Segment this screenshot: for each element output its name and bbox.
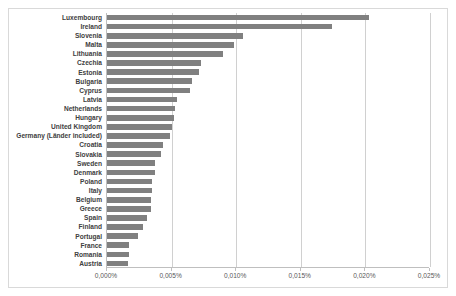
bar — [107, 224, 143, 230]
y-axis-label: Slovakia — [75, 151, 102, 158]
x-axis-tick — [235, 268, 236, 271]
bar — [107, 215, 147, 221]
x-axis-tick-label: 0,005% — [159, 271, 181, 280]
x-axis-tick-label: 0,020% — [353, 271, 375, 280]
y-axis-label: United Kingdom — [51, 123, 102, 130]
y-axis-label: Ireland — [80, 23, 102, 30]
y-axis-label: Austria — [79, 260, 102, 267]
bar — [107, 197, 151, 203]
y-axis-label: Estonia — [78, 69, 102, 76]
y-axis-label: Czechia — [77, 59, 102, 66]
x-axis-tick-label: 0,025% — [418, 271, 440, 280]
y-axis-label: Spain — [84, 214, 102, 221]
bar — [107, 151, 161, 157]
bar — [107, 261, 128, 267]
x-axis-tick — [429, 268, 430, 271]
y-axis-label: Belgium — [76, 196, 102, 203]
y-axis-label: Germany (Länder included) — [16, 132, 102, 139]
x-axis-tick-label: 0,010% — [224, 271, 246, 280]
bar — [107, 33, 243, 39]
plot-area — [106, 13, 429, 268]
y-axis-label: Sweden — [77, 160, 102, 167]
bar — [107, 42, 234, 48]
bar — [107, 24, 332, 30]
bar — [107, 51, 223, 57]
y-axis-label: Slovenia — [75, 32, 102, 39]
bar — [107, 60, 201, 66]
y-axis-label: Greece — [80, 205, 102, 212]
y-axis-label: Lithuania — [73, 50, 102, 57]
x-axis-tick — [364, 268, 365, 271]
gridline — [430, 13, 431, 267]
bar — [107, 242, 129, 248]
bar — [107, 252, 129, 258]
bar — [107, 115, 174, 121]
bar — [107, 88, 190, 94]
bar — [107, 206, 151, 212]
bar — [107, 179, 152, 185]
y-axis-label: Luxembourg — [62, 14, 102, 21]
bar — [107, 142, 163, 148]
y-axis-label: Finland — [79, 223, 102, 230]
bar-chart: LuxembourgIrelandSloveniaMaltaLithuaniaC… — [0, 0, 456, 296]
x-axis-tick — [106, 268, 107, 271]
y-axis-label: Romania — [74, 251, 102, 258]
x-axis-tick-labels: 0,000%0,005%0,010%0,015%0,020%0,025% — [0, 271, 456, 285]
bar — [107, 69, 199, 75]
y-axis-label: Italy — [89, 187, 102, 194]
y-axis-label: Denmark — [74, 169, 102, 176]
bar — [107, 124, 172, 130]
bar — [107, 188, 152, 194]
bar-series — [107, 13, 429, 267]
y-axis-label: Portugal — [75, 233, 102, 240]
bar — [107, 15, 369, 21]
bar — [107, 78, 192, 84]
y-axis-label: Netherlands — [64, 105, 102, 112]
y-axis-label: Cyprus — [79, 87, 102, 94]
y-axis-category-labels: LuxembourgIrelandSloveniaMaltaLithuaniaC… — [8, 13, 104, 268]
y-axis-label: Bulgaria — [76, 78, 102, 85]
bar — [107, 133, 170, 139]
bar — [107, 97, 177, 103]
x-axis-tick-label: 0,015% — [289, 271, 311, 280]
x-axis-tick — [171, 268, 172, 271]
y-axis-label: Poland — [80, 178, 102, 185]
y-axis-label: France — [80, 242, 102, 249]
x-axis-tick — [300, 268, 301, 271]
bar — [107, 233, 138, 239]
bar — [107, 106, 175, 112]
y-axis-label: Hungary — [75, 114, 102, 121]
y-axis-label: Malta — [85, 41, 102, 48]
y-axis-label: Croatia — [79, 141, 102, 148]
y-axis-label: Latvia — [83, 96, 102, 103]
bar — [107, 160, 155, 166]
bar — [107, 170, 155, 176]
x-axis-tick-label: 0,000% — [95, 271, 117, 280]
